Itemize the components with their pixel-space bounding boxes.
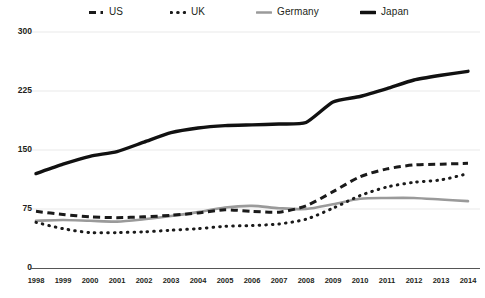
x-axis-labels: 1998199920002001200220032004200520062007…	[0, 276, 485, 296]
series-line-uk	[36, 174, 468, 233]
line-chart: USUKGermanyJapan 075150225300 1998199920…	[0, 0, 485, 298]
plot-area	[0, 0, 485, 298]
x-tick-label: 2014	[451, 276, 485, 286]
series-line-japan	[36, 71, 468, 173]
series-line-germany	[36, 198, 468, 222]
series-line-us	[36, 163, 468, 217]
